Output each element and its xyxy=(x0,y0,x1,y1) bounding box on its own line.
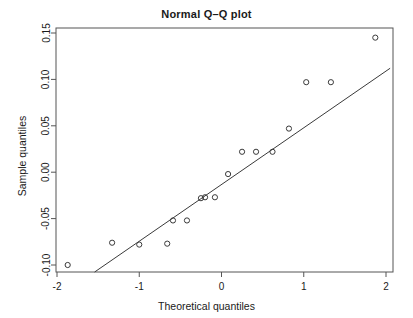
plot-canvas: -2-1012 0.150.100.050.00-0.05-0.10 xyxy=(0,0,413,318)
data-points xyxy=(65,35,378,268)
x-tick-label: 0 xyxy=(219,281,225,292)
data-point xyxy=(65,262,70,267)
x-axis-label: Theoretical quantiles xyxy=(0,300,413,312)
y-tick-label: 0.10 xyxy=(41,69,52,89)
x-axis-ticks: -2-1012 xyxy=(53,272,390,292)
normal-qq-plot: Normal Q–Q plot -2-1012 0.150.100.050.00… xyxy=(0,0,413,318)
y-tick-label: 0.00 xyxy=(41,162,52,182)
y-tick-label: -0.05 xyxy=(41,207,52,230)
plot-frame xyxy=(56,28,393,272)
y-axis-ticks: 0.150.100.050.00-0.05-0.10 xyxy=(41,23,57,277)
reference-line xyxy=(95,68,390,272)
data-point xyxy=(137,242,142,247)
data-point xyxy=(184,218,189,223)
data-point xyxy=(170,218,175,223)
data-point xyxy=(165,241,170,246)
x-tick-label: -1 xyxy=(135,281,144,292)
data-point xyxy=(212,195,217,200)
data-point xyxy=(110,240,115,245)
data-point xyxy=(239,149,244,154)
y-axis-label: Sample quantiles xyxy=(16,86,28,226)
x-tick-label: -2 xyxy=(53,281,62,292)
data-point xyxy=(253,149,258,154)
data-point xyxy=(373,35,378,40)
data-point xyxy=(304,80,309,85)
x-tick-label: 2 xyxy=(383,281,389,292)
data-point xyxy=(286,126,291,131)
data-point xyxy=(328,80,333,85)
y-tick-label: 0.05 xyxy=(41,116,52,136)
data-point xyxy=(225,171,230,176)
x-tick-label: 1 xyxy=(301,281,307,292)
y-tick-label: 0.15 xyxy=(41,23,52,43)
y-tick-label: -0.10 xyxy=(41,253,52,276)
